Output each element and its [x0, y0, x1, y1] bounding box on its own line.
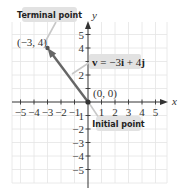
- x-axis-label: x: [171, 95, 177, 107]
- initial-point-dot: [85, 99, 90, 104]
- y-tick-label: −3: [72, 137, 84, 149]
- vector-label-callout: v = −3i + 4j: [89, 54, 145, 69]
- terminal-point-coords: (−3, 4): [17, 36, 47, 49]
- terminal-point-label: Terminal point: [17, 11, 82, 20]
- y-tick-label: 2: [79, 69, 85, 81]
- y-axis-arrow-icon: [85, 21, 91, 29]
- callout-lines: [44, 22, 99, 118]
- terminal-point-callout: Terminal point: [17, 7, 82, 22]
- x-tick-label: −2: [55, 106, 67, 118]
- x-tick-label: −4: [28, 106, 40, 118]
- x-tick-label: −3: [42, 106, 54, 118]
- y-tick-label: 4: [79, 42, 85, 54]
- y-tick-label: 5: [79, 29, 85, 41]
- vector-diagram: −5 −4 −3 −2 −1 1 2 3 4 5 5 4 2 1 −2 −3 −…: [0, 0, 183, 194]
- y-tick-label: 1: [79, 110, 85, 122]
- vector-equation: v = −3i + 4j: [92, 56, 145, 68]
- initial-point-callout: Initial point: [92, 116, 145, 131]
- x-tick-label: 5: [153, 106, 159, 118]
- y-axis-label: y: [91, 9, 97, 21]
- x-tick-label: 4: [139, 106, 145, 118]
- initial-point-label: Initial point: [92, 120, 145, 129]
- y-tick-label: −4: [72, 150, 84, 162]
- initial-point-coords: (0, 0): [93, 87, 117, 100]
- y-tick-label: −2: [72, 123, 84, 135]
- x-tick-label: −5: [15, 106, 27, 118]
- y-tick-label: −5: [72, 164, 84, 176]
